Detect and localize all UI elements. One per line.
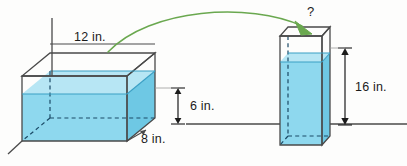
left-length-label: 12 in. [74, 31, 106, 44]
left-water-height-label: 6 in. [190, 100, 215, 113]
left-box-front-left-axis-leg [8, 141, 22, 154]
right-unknown-height-label: ? [307, 5, 314, 18]
left-waterheight-arrow-down [175, 118, 182, 124]
right-water-front-face [280, 62, 322, 145]
left-depth-label: 8 in. [141, 133, 166, 146]
right-height-arrow-up [341, 48, 348, 55]
left-waterheight-arrow-up [175, 88, 182, 94]
figure-canvas [0, 0, 407, 166]
pour-arrow-head [295, 21, 312, 35]
geometry-figure: 12 in. 8 in. 6 in. ? 16 in. [0, 0, 407, 166]
right-height-label: 16 in. [355, 81, 387, 94]
pour-arrow-curve [108, 12, 302, 52]
right-water-side-face [322, 53, 330, 145]
